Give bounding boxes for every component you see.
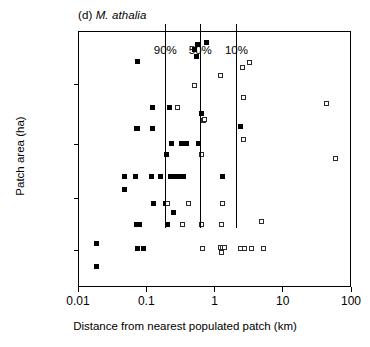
data-point-occupied [133,174,138,179]
x-axis-tick [351,287,352,292]
percentile-label-10: 10% [225,44,248,56]
data-point-empty [200,246,205,251]
figure-panel-d: (d) M. athalia Distance from nearest pop… [0,0,370,347]
data-point-occupied [122,187,127,192]
data-point-occupied [137,222,142,227]
data-point-occupied [135,126,140,131]
data-point-empty [259,219,264,224]
data-point-empty [324,101,329,106]
data-point-empty [192,83,197,88]
x-axis-tick-label: 1 [211,294,218,308]
x-axis-tick-label: 10 [276,294,289,308]
y-axis-tick [74,250,79,251]
data-point-occupied [141,246,146,251]
data-point-occupied [150,105,155,110]
x-axis-tick [214,287,215,292]
data-point-occupied [181,174,186,179]
data-point-empty [186,201,191,206]
data-point-occupied [149,174,154,179]
x-axis-tick-label: 100 [341,294,361,308]
data-point-occupied [171,210,176,215]
data-point-occupied [135,246,140,251]
data-point-occupied [122,174,127,179]
data-point-empty [247,60,252,65]
data-point-occupied [94,241,99,246]
data-point-occupied [184,141,189,146]
data-point-empty [240,65,245,70]
data-point-occupied [135,59,140,64]
data-point-empty [261,246,266,251]
data-point-empty [333,156,338,161]
percentile-label-90: 90% [154,44,177,56]
data-point-empty [249,246,254,251]
data-point-empty [220,201,225,206]
data-point-empty [241,95,246,100]
plot-frame [78,31,351,287]
x-axis-tick [282,287,283,292]
x-axis-tick [78,287,79,292]
data-point-occupied [238,124,243,129]
plot-area [79,32,350,286]
data-point-occupied [168,174,173,179]
y-axis-title: Patch area (ha) [14,76,26,236]
panel-letter: (d) [78,9,92,21]
x-axis-tick-label: 0.1 [138,294,155,308]
data-point-empty [175,105,180,110]
y-axis-tick [74,198,79,199]
data-point-empty [242,246,247,251]
data-point-empty [180,222,185,227]
x-axis-tick [146,287,147,292]
panel-title: (d) M. athalia [78,9,147,21]
percentile-label-50: 50% [189,44,212,56]
data-point-empty [219,250,224,255]
data-point-occupied [169,141,174,146]
data-point-occupied [167,105,172,110]
data-point-empty [219,222,224,227]
y-axis-tick [74,144,79,145]
species-name: M. athalia [96,9,147,21]
data-point-empty [218,73,223,78]
x-axis-tick-label: 0.01 [66,294,89,308]
data-point-occupied [150,126,155,131]
data-point-occupied [220,174,225,179]
data-point-empty [202,117,207,122]
x-axis-title: Distance from nearest populated patch (k… [0,320,370,332]
data-point-occupied [94,264,99,269]
data-point-occupied [151,201,156,206]
data-point-occupied [158,174,163,179]
y-axis-tick [74,84,79,85]
data-point-empty [241,137,246,142]
